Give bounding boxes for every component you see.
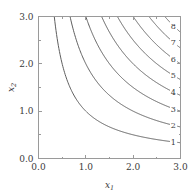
contour-label-5: 5 — [171, 71, 176, 80]
contour-curves — [54, 17, 180, 143]
axis-titles-group: x1x2 — [6, 83, 114, 192]
x-tick-label: 1.0 — [79, 162, 94, 172]
y-axis-title: x2 — [6, 83, 18, 92]
x-tick-label: 2.0 — [126, 162, 141, 172]
contour-label-3: 3 — [171, 105, 176, 114]
contour-label-7: 7 — [171, 38, 176, 47]
y-tick-label: 2.0 — [19, 59, 34, 69]
y-axis-title-sub: 2 — [10, 83, 18, 88]
contour-line-1 — [54, 17, 180, 143]
plot-canvas: 0.01.02.03.00.01.02.03.0 12345678 x1x2 — [0, 0, 195, 196]
contour-label-2: 2 — [171, 121, 176, 130]
contour-line-4 — [102, 17, 181, 96]
axes-group — [39, 17, 181, 159]
y-tick-label: 3.0 — [19, 12, 34, 22]
axes-frame — [39, 17, 181, 159]
contour-inline-labels: 12345678 — [170, 21, 177, 147]
x-tick-label: 0.0 — [31, 162, 46, 172]
x-axis-title-sub: 1 — [110, 184, 114, 192]
contour-label-6: 6 — [171, 55, 176, 64]
y-tick-label: 0.0 — [19, 154, 34, 164]
y-tick-label: 1.0 — [19, 106, 34, 116]
contour-label-1: 1 — [171, 138, 176, 147]
x-axis-title: x1 — [105, 180, 114, 192]
tick-labels-group: 0.01.02.03.00.01.02.03.0 — [19, 12, 188, 172]
contour-plot-figure: 0.01.02.03.00.01.02.03.0 12345678 x1x2 — [0, 0, 195, 196]
x-tick-label: 3.0 — [173, 162, 188, 172]
contour-label-4: 4 — [171, 88, 176, 97]
contour-label-8: 8 — [171, 22, 176, 31]
